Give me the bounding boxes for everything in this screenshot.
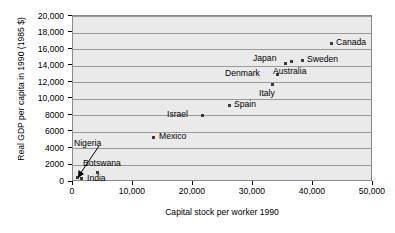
y-tick-label-4000: 4000 [4, 143, 64, 153]
y-tick-label-16000: 16,000 [4, 44, 64, 54]
gridline [73, 115, 371, 116]
y-tick-label-18000: 18,000 [4, 27, 64, 37]
x-tick-mark [192, 181, 193, 185]
y-tick-label-20000: 20,000 [4, 11, 64, 21]
point-label-canada: Canada [336, 37, 366, 47]
point-label-australia: Australia [273, 66, 306, 76]
point-label-denmark: Denmark [225, 68, 260, 78]
data-point-sweden [301, 59, 304, 62]
x-tick-label-0: 0 [42, 186, 102, 196]
data-point-italy [271, 83, 274, 86]
gridline [73, 16, 371, 17]
y-tick-label-0: 0 [4, 176, 64, 186]
gridline [73, 82, 371, 83]
x-tick-mark [252, 181, 253, 185]
gridline [73, 99, 371, 100]
data-point-mexico [152, 136, 155, 139]
data-point-australia [290, 60, 293, 63]
point-label-spain: Spain [234, 99, 256, 109]
data-point-canada [330, 42, 333, 45]
y-tick-label-6000: 6000 [4, 126, 64, 136]
x-tick-label-10000: 10,000 [102, 186, 162, 196]
x-tick-mark [132, 181, 133, 185]
y-tick-label-10000: 10,000 [4, 93, 64, 103]
x-tick-mark [72, 181, 73, 185]
x-tick-mark [312, 181, 313, 185]
gridline [73, 132, 371, 133]
point-label-italy: Italy [259, 88, 275, 98]
point-label-israel: Israel [167, 109, 188, 119]
scatter-chart: Real GDP per capita in 1990 (1985 $) Cap… [0, 0, 395, 233]
x-tick-mark [372, 181, 373, 185]
x-tick-label-40000: 40,000 [282, 186, 342, 196]
gridline [73, 33, 371, 34]
point-label-mexico: Mexico [159, 131, 186, 141]
gridline [73, 148, 371, 149]
data-point-japan [284, 62, 287, 65]
x-tick-label-30000: 30,000 [222, 186, 282, 196]
x-tick-label-50000: 50,000 [342, 186, 395, 196]
point-label-sweden: Sweden [307, 54, 338, 64]
y-tick-label-2000: 2000 [4, 159, 64, 169]
data-point-israel [201, 114, 204, 117]
y-tick-label-12000: 12,000 [4, 77, 64, 87]
x-axis-title: Capital stock per worker 1990 [72, 207, 372, 217]
y-tick-label-8000: 8000 [4, 110, 64, 120]
gridline [73, 49, 371, 50]
gridline [73, 66, 371, 67]
nigeria-leader-arrow [73, 144, 113, 180]
y-tick-label-14000: 14,000 [4, 60, 64, 70]
x-tick-label-20000: 20,000 [162, 186, 222, 196]
point-label-japan: Japan [253, 53, 276, 63]
plot-area: Canada Sweden Australia Japan Denmark It… [72, 15, 372, 181]
data-point-spain [228, 104, 231, 107]
